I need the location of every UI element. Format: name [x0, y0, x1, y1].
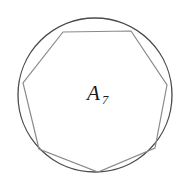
figure-canvas: A 7 [0, 0, 188, 182]
geometry-figure: A 7 [0, 0, 188, 182]
area-label-subscript: 7 [102, 93, 109, 107]
area-label-letter: A [85, 81, 100, 105]
